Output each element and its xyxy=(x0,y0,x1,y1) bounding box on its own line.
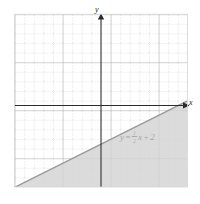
y-axis-label: y xyxy=(95,6,99,14)
equation-constant: 2 xyxy=(150,133,155,142)
equation-variable: x xyxy=(138,133,142,142)
equation-plus: + xyxy=(143,133,149,142)
fraction-numerator: 1 xyxy=(132,130,137,136)
equation-fraction: 1 2 xyxy=(132,130,137,144)
graph-canvas: y x y = 1 2 x + 2 xyxy=(0,0,200,204)
fraction-denominator: 2 xyxy=(132,138,137,144)
x-axis-label: x xyxy=(189,99,193,107)
coordinate-plane xyxy=(0,0,200,204)
equation-lhs: y xyxy=(120,133,124,142)
equation-equals: = xyxy=(125,133,131,142)
equation-label: y = 1 2 x + 2 xyxy=(120,130,155,144)
